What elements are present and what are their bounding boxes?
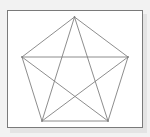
- diagonal-edge-top-bottom-left: [42, 17, 75, 121]
- diagonal-edge-left-bottom-right: [22, 57, 108, 121]
- side-edge-top-right: [75, 17, 129, 57]
- side-edge-bottom-left-left: [22, 57, 42, 121]
- vertex-top: [74, 16, 76, 18]
- pentagon-diagram: [0, 0, 150, 137]
- vertex-right: [127, 56, 129, 58]
- side-edge-right-bottom-right: [108, 57, 128, 121]
- diagonal-edge-right-bottom-left: [42, 57, 128, 121]
- vertex-bottom-left: [41, 120, 43, 122]
- edges-group: [22, 17, 128, 121]
- vertex-left: [21, 56, 23, 58]
- diagonal-edge-top-bottom-right: [75, 17, 109, 121]
- side-edge-left-top: [22, 17, 75, 57]
- vertex-bottom-right: [107, 120, 109, 122]
